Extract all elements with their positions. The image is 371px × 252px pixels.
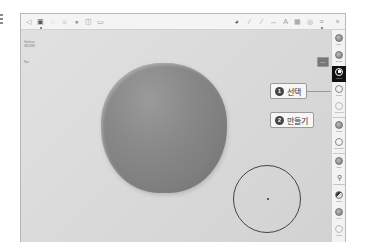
tool-label: Layer <box>332 217 346 220</box>
camera-icon[interactable]: ☼ <box>61 18 68 25</box>
tool-brush[interactable]: Brush <box>332 49 346 65</box>
layers-icon[interactable]: ▭ <box>97 18 104 25</box>
callout-number-1: 1 <box>275 87 284 96</box>
undo-redo-icon[interactable]: » <box>334 18 341 25</box>
tool-label: Transform <box>332 183 346 186</box>
symmetry-icon[interactable]: ↔ <box>270 18 277 25</box>
brush-icon <box>335 51 343 59</box>
mask-icon <box>335 121 343 129</box>
tool-label: Brush <box>332 60 346 63</box>
transform-icon: ⚲ <box>335 174 343 182</box>
layer-icon <box>335 208 343 216</box>
top-toolbar: ◁ ▣ ◌ ☼ ● ◫ ▭ ◕ ⁄ ⁄ ↔ A ▦ ◎ ≡ » <box>21 14 345 30</box>
tool-label: Drag <box>332 94 346 97</box>
tool-label: Trim <box>332 166 346 169</box>
share-button[interactable]: Share <box>317 57 329 67</box>
drag-icon <box>335 85 343 93</box>
tool-transform[interactable]: ⚲ Transform <box>332 172 346 188</box>
share-label: Share <box>318 58 328 67</box>
insert-icon <box>335 225 343 233</box>
tool-layer[interactable]: Layer <box>332 206 346 222</box>
sculpt-sphere[interactable] <box>101 63 227 193</box>
topology-icon[interactable]: ◫ <box>85 18 92 25</box>
tool-divider <box>333 117 345 118</box>
callout-make-text: 만들기 <box>287 115 308 126</box>
tool-label: Move <box>332 77 346 80</box>
brush-settings-icon[interactable]: ⁄ <box>258 18 265 25</box>
tool-trim[interactable]: Trim <box>332 155 346 171</box>
view-icon[interactable]: ◎ <box>306 18 313 25</box>
file-icon[interactable]: ◁ <box>25 18 32 25</box>
tool-mask[interactable]: Mask <box>332 119 346 135</box>
tool-label: Clay <box>332 43 346 46</box>
tool-panel: Clay Brush Move Drag Smooth Mask SelMask <box>331 30 345 242</box>
fps-label: Fps <box>24 60 29 64</box>
tool-move[interactable]: Move <box>332 66 346 82</box>
smooth-icon <box>335 102 343 110</box>
clay-icon <box>335 34 343 42</box>
callout-number-2: 2 <box>275 116 284 125</box>
move-icon <box>335 68 343 76</box>
material-icon[interactable]: ◕ <box>233 18 240 25</box>
trim-icon <box>335 157 343 165</box>
app-window: ◁ ▣ ◌ ☼ ● ◫ ▭ ◕ ⁄ ⁄ ↔ A ▦ ◎ ≡ » Vertices… <box>20 13 346 242</box>
history-icon[interactable]: ≡ <box>318 18 325 25</box>
render-icon[interactable]: ● <box>73 18 80 25</box>
brush-center-dot <box>267 198 269 200</box>
grid-icon[interactable]: ▦ <box>294 18 301 25</box>
viewport-canvas[interactable]: Vertices 482,888 Fps Share 1 선택 2 만들기 <box>21 30 333 242</box>
callout-select-text: 선택 <box>287 86 301 97</box>
tool-label: Paint <box>332 200 346 203</box>
scene-icon[interactable]: ▣ <box>37 18 44 25</box>
text-icon[interactable]: A <box>282 18 289 25</box>
tool-clay[interactable]: Clay <box>332 32 346 48</box>
vertex-count: 482,888 <box>24 44 35 48</box>
tool-smooth[interactable]: Smooth <box>332 100 346 116</box>
brush-radius-cursor[interactable] <box>233 165 301 233</box>
tool-label: Mask <box>332 130 346 133</box>
tool-selmask[interactable]: SelMask <box>332 136 346 152</box>
callout-select: 1 선택 <box>270 83 307 99</box>
active-indicator <box>40 27 42 29</box>
tool-label: Insert <box>332 234 346 237</box>
tool-insert[interactable]: Insert <box>332 223 346 239</box>
stroke-icon[interactable]: ⁄ <box>246 18 253 25</box>
settings-icon[interactable]: ◌ <box>49 18 56 25</box>
tool-paint[interactable]: Paint <box>332 189 346 205</box>
tool-label: SelMask <box>332 147 346 150</box>
selmask-icon <box>335 138 343 146</box>
tool-divider <box>333 153 345 154</box>
callout-connector <box>306 91 333 92</box>
tool-label: Smooth <box>332 111 346 114</box>
tool-drag[interactable]: Drag <box>332 83 346 99</box>
history-indicator <box>321 27 323 29</box>
left-edge-marks <box>0 14 4 28</box>
callout-make: 2 만들기 <box>270 112 314 128</box>
paint-icon <box>335 191 343 199</box>
